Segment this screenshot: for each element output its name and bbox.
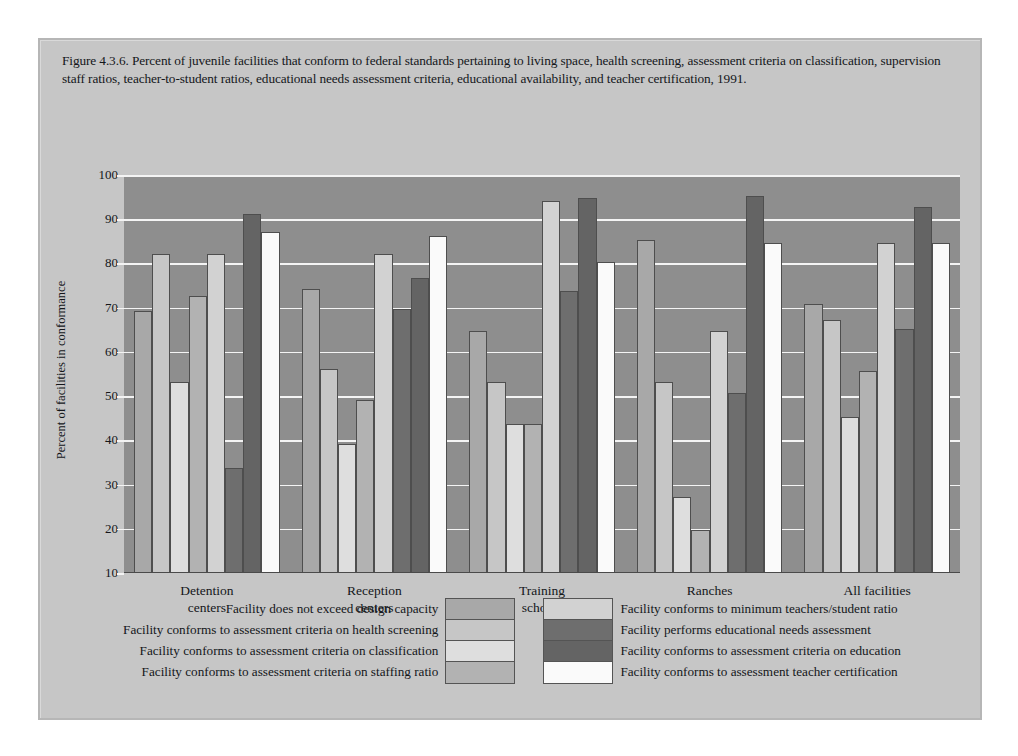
- x-category-label-line: All facilities: [804, 582, 950, 599]
- plot-left-padding: [124, 175, 134, 572]
- y-tick-label: 30: [74, 477, 118, 493]
- legend-left-labels: Facility does not exceed design capacity…: [123, 598, 445, 684]
- bar-group-gap: [782, 175, 804, 572]
- bar[interactable]: [429, 236, 447, 572]
- y-tick-label: 60: [74, 344, 118, 360]
- legend-swatch[interactable]: [446, 620, 514, 641]
- plot-area: [124, 175, 960, 573]
- legend-swatch[interactable]: [446, 662, 514, 683]
- bar[interactable]: [393, 309, 411, 572]
- x-category-label-line: Training: [469, 582, 615, 599]
- bars-layer: [124, 175, 960, 572]
- legend-label: Facility does not exceed design capacity: [226, 598, 446, 619]
- y-tick-label: 100: [74, 167, 118, 183]
- y-axis-label: Percent of facilities in conformance: [54, 270, 69, 470]
- bar[interactable]: [895, 329, 913, 572]
- bar[interactable]: [134, 311, 152, 572]
- bar[interactable]: [859, 371, 877, 572]
- legend-left-swatches: [445, 598, 515, 684]
- bar[interactable]: [338, 444, 356, 572]
- plot-right-padding: [950, 175, 960, 572]
- bar[interactable]: [225, 468, 243, 572]
- bar[interactable]: [261, 232, 279, 573]
- y-tick-mark: [117, 219, 124, 221]
- legend-swatch[interactable]: [446, 599, 514, 620]
- legend-swatch[interactable]: [544, 641, 612, 662]
- bar[interactable]: [932, 243, 950, 572]
- y-tick-mark: [117, 175, 124, 177]
- bar[interactable]: [578, 198, 596, 572]
- legend-label: Facility performs educational needs asse…: [613, 619, 871, 640]
- bar[interactable]: [302, 289, 320, 572]
- bar[interactable]: [597, 262, 615, 572]
- y-tick-label: 70: [74, 300, 118, 316]
- x-category-label-line: Detention: [134, 582, 280, 599]
- bar-group-gap: [447, 175, 469, 572]
- bar[interactable]: [637, 240, 655, 572]
- bar[interactable]: [673, 497, 691, 572]
- y-tick-label: 90: [74, 211, 118, 227]
- y-tick-mark: [117, 308, 124, 310]
- bar[interactable]: [243, 214, 261, 572]
- x-category-label-line: Reception: [302, 582, 448, 599]
- legend-label: Facility conforms to minimum teachers/st…: [613, 598, 897, 619]
- legend-label: Facility conforms to assessment criteria…: [140, 640, 446, 661]
- y-tick-mark: [117, 440, 124, 442]
- bar-group: [469, 175, 615, 572]
- y-tick-label: 80: [74, 255, 118, 271]
- figure-page: Figure 4.3.6. Percent of juvenile facili…: [0, 0, 1018, 756]
- legend-swatch[interactable]: [446, 641, 514, 662]
- y-tick-mark: [117, 396, 124, 398]
- legend-right-swatches: [543, 598, 613, 684]
- bar[interactable]: [728, 393, 746, 572]
- bar[interactable]: [189, 296, 207, 572]
- bar[interactable]: [469, 331, 487, 572]
- legend-swatch[interactable]: [544, 662, 612, 683]
- y-tick-mark: [117, 485, 124, 487]
- y-tick-label: 50: [74, 388, 118, 404]
- bar-group-gap: [615, 175, 637, 572]
- x-right-padding: [950, 578, 960, 622]
- bar[interactable]: [710, 331, 728, 572]
- legend-swatch[interactable]: [544, 599, 612, 620]
- bar-group: [134, 175, 280, 572]
- legend-right-labels: Facility conforms to minimum teachers/st…: [613, 598, 901, 684]
- legend-label: Facility conforms to assessment criteria…: [613, 640, 901, 661]
- bar[interactable]: [823, 320, 841, 572]
- bar[interactable]: [804, 304, 822, 572]
- bar[interactable]: [746, 196, 764, 572]
- bar[interactable]: [524, 424, 542, 572]
- y-tick-mark: [117, 529, 124, 531]
- bar[interactable]: [655, 382, 673, 572]
- bar-group-gap: [280, 175, 302, 572]
- chart-legend: Facility does not exceed design capacity…: [84, 598, 940, 696]
- bar[interactable]: [152, 254, 170, 572]
- y-tick-mark: [117, 263, 124, 265]
- legend-column-left: Facility does not exceed design capacity…: [123, 598, 515, 684]
- bar-group: [804, 175, 950, 572]
- bar[interactable]: [170, 382, 188, 572]
- bar[interactable]: [356, 400, 374, 572]
- bar[interactable]: [374, 254, 392, 572]
- legend-swatch[interactable]: [544, 620, 612, 641]
- bar[interactable]: [487, 382, 505, 572]
- bar[interactable]: [841, 417, 859, 572]
- y-tick-mark: [117, 352, 124, 354]
- figure-caption: Figure 4.3.6. Percent of juvenile facili…: [62, 52, 962, 87]
- legend-column-right: Facility conforms to minimum teachers/st…: [543, 598, 901, 684]
- x-category-label-line: Ranches: [637, 582, 783, 599]
- y-tick-label: 40: [74, 432, 118, 448]
- bar[interactable]: [320, 369, 338, 572]
- chart-plot-wrapper: Percent of facilities in conformance 102…: [62, 120, 962, 595]
- legend-label: Facility conforms to assessment criteria…: [123, 619, 445, 640]
- bar[interactable]: [691, 530, 709, 572]
- bar[interactable]: [207, 254, 225, 572]
- bar[interactable]: [411, 278, 429, 572]
- bar[interactable]: [506, 424, 524, 572]
- y-tick-label: 10: [74, 565, 118, 581]
- bar[interactable]: [877, 243, 895, 572]
- bar[interactable]: [914, 207, 932, 572]
- bar[interactable]: [542, 201, 560, 572]
- bar[interactable]: [560, 291, 578, 572]
- bar[interactable]: [764, 243, 782, 572]
